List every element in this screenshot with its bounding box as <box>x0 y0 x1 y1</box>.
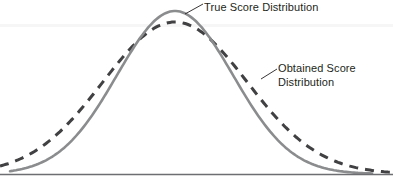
obtained-score-label-line2: Distribution <box>278 76 356 90</box>
true-score-distribution-label: True Score Distribution <box>204 1 318 15</box>
obtained-score-label-line1: Obtained Score <box>278 62 356 76</box>
distribution-plot <box>0 0 393 188</box>
distribution-figure: True Score Distribution Obtained Score D… <box>0 0 393 188</box>
leader-line-true-score <box>185 4 203 14</box>
obtained-score-distribution-label: Obtained Score Distribution <box>278 62 356 89</box>
leader-line-obtained-score <box>261 69 277 79</box>
obtained-score-curve <box>0 22 392 172</box>
true-score-curve <box>10 11 372 174</box>
